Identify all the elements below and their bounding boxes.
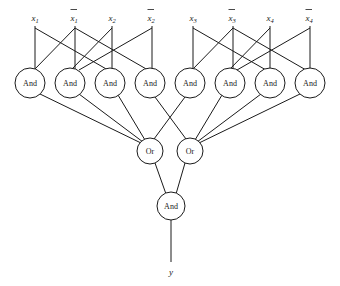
gate-and5[interactable]: And [175,68,205,98]
and-gate-label: And [143,79,157,88]
input-label-x2: x2 [107,13,116,24]
input-label-x4: x4 [265,13,274,24]
gate-or2[interactable]: Or [177,138,203,164]
gate-and2[interactable]: And [55,68,85,98]
and-to-or-wires-left [40,94,186,143]
edge-x1-and3 [35,28,108,70]
or-gate-label: Or [186,147,195,156]
circuit-diagram: And And And And And And [0,0,340,286]
input-label-text: x3 [188,13,197,24]
input-label-text: x2 [146,13,155,24]
input-label-nx1: x1 [69,10,77,25]
and-gate-label: And [303,79,317,88]
and-gate-label: And [164,202,178,211]
edge-x4-and6 [229,28,270,70]
edge-nx2-and2 [79,28,152,70]
input-label-nx2: x2 [146,10,155,25]
and-gates-row: And And And And And And [15,68,325,98]
edge-or2-andout [176,163,185,194]
gate-and-output[interactable]: And [157,192,185,220]
gate-and1[interactable]: And [15,68,45,98]
gate-and3[interactable]: And [95,68,125,98]
edge-x3-and7 [193,28,266,70]
and-to-or-wires-right [154,94,300,143]
edge-x2-and2 [71,28,112,70]
input-label-text: x1 [30,13,38,24]
input-to-and-wires-left [34,28,152,70]
input-label-text: x4 [265,13,274,24]
input-labels: x1 x1 x2 x2 x3 x3 x4 [30,10,313,25]
edge-and5-or2 [154,97,185,139]
input-label-text: x1 [69,13,77,24]
input-label-x3: x3 [188,13,197,24]
input-label-nx4: x4 [304,10,313,25]
input-to-and-wires-right [192,28,310,70]
or-gates-row: Or Or [137,138,203,164]
and-gate-label: And [63,79,77,88]
circuit-svg: And And And And And And [0,0,340,286]
edge-and1-or1 [40,94,141,143]
input-label-x1: x1 [30,13,38,24]
gate-and4[interactable]: And [135,68,165,98]
edge-and8-or2 [199,94,300,143]
input-label-nx3: x3 [227,10,236,25]
edge-nx4-and6 [237,28,310,70]
and-gate-label: And [23,79,37,88]
gate-and8[interactable]: And [295,68,325,98]
output-label-y: y [168,267,173,277]
or-to-and-wires [155,163,185,194]
edge-or1-andout [155,163,166,194]
gate-or1[interactable]: Or [137,138,163,164]
input-label-text: x4 [304,13,313,24]
and-gate-label: And [183,79,197,88]
and-gate-label: And [263,79,277,88]
gate-and7[interactable]: And [255,68,285,98]
or-gate-label: Or [146,147,155,156]
edge-nx3-and5 [192,28,233,70]
edge-nx1-and1 [34,28,75,70]
and-gate-label: And [223,79,237,88]
edge-and4-or1 [155,97,186,139]
gate-and6[interactable]: And [215,68,245,98]
and-gate-label: And [103,79,117,88]
input-label-text: x2 [107,13,116,24]
input-label-text: x3 [227,13,236,24]
